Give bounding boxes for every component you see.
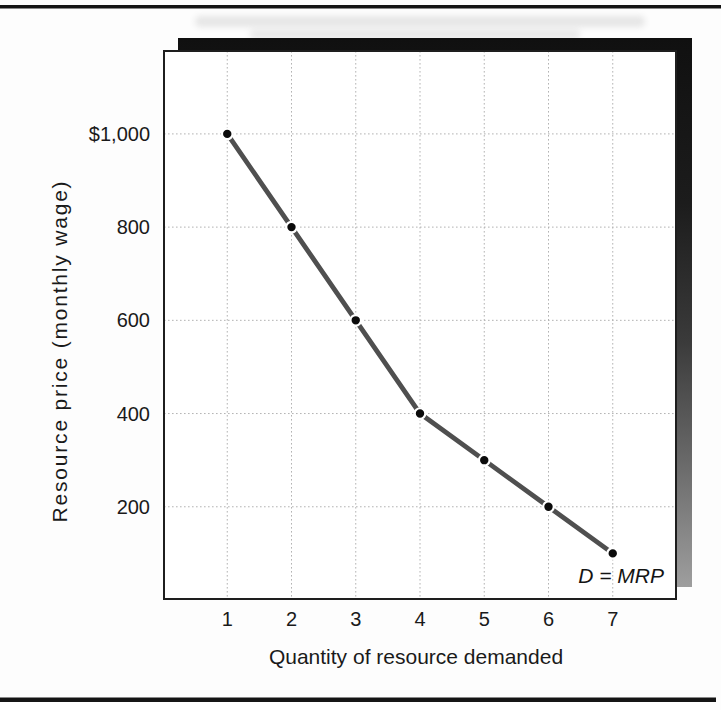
textbook-page: 1234567 200400600800$1,000 Resource pric… xyxy=(0,0,721,710)
page-bottom-rule xyxy=(0,698,716,703)
y-tick-label: 200 xyxy=(117,496,150,518)
x-axis-title: Quantity of resource demanded xyxy=(269,645,563,668)
x-axis-tick-labels: 1234567 xyxy=(222,608,619,630)
data-point xyxy=(607,548,618,559)
x-tick-label: 3 xyxy=(350,608,361,630)
curve-label-d-mrp: D = MRP xyxy=(578,564,664,587)
data-point xyxy=(222,129,233,140)
x-tick-label: 6 xyxy=(543,608,554,630)
y-tick-label: 400 xyxy=(117,403,150,425)
y-tick-label: $1,000 xyxy=(89,123,150,145)
y-axis-title: Resource price (monthly wage) xyxy=(48,180,71,523)
x-tick-label: 2 xyxy=(286,608,297,630)
data-point xyxy=(350,315,361,326)
data-point xyxy=(479,455,490,466)
data-point xyxy=(286,222,297,233)
page-top-rule xyxy=(0,5,721,9)
x-tick-label: 7 xyxy=(607,608,618,630)
data-point xyxy=(543,501,554,512)
x-tick-label: 1 xyxy=(222,608,233,630)
y-tick-label: 600 xyxy=(117,309,150,331)
figure-canvas: 1234567 200400600800$1,000 Resource pric… xyxy=(0,0,721,710)
data-point xyxy=(415,408,426,419)
page-bleed-artifact xyxy=(195,16,645,39)
y-tick-label: 800 xyxy=(117,216,150,238)
y-axis-tick-labels: 200400600800$1,000 xyxy=(89,123,150,518)
x-tick-label: 5 xyxy=(479,608,490,630)
x-tick-label: 4 xyxy=(414,608,425,630)
